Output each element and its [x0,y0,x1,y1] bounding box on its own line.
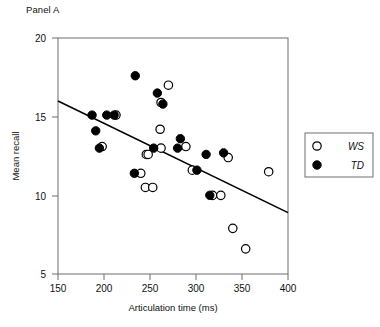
data-points-layer [88,72,273,253]
data-point-ws [229,224,237,232]
legend-label-ws: WS [348,141,364,152]
data-point-ws [164,81,172,89]
x-axis-title: Articulation time (ms) [128,302,217,313]
data-point-ws [264,168,272,176]
data-point-td [159,100,167,108]
data-point-td [202,150,210,158]
y-tick-label: 15 [35,112,47,123]
data-point-td [131,72,139,80]
chart-figure: Panel A 150 200 250 300 350 400 [0,0,380,327]
x-tick-label: 400 [280,283,297,294]
legend: WS TD [305,133,373,177]
data-point-ws [182,142,190,150]
data-point-td [88,111,96,119]
y-axis-title: Mean recall [10,131,21,180]
data-point-td [193,166,201,174]
data-point-td [206,191,214,199]
scatter-plot-svg: 150 200 250 300 350 400 20 15 10 5 Artic… [0,0,380,327]
y-tick-label: 5 [40,269,46,280]
y-axis-ticks [52,38,58,274]
x-axis-tick-labels: 150 200 250 300 350 400 [50,283,297,294]
legend-marker-td [313,161,321,169]
y-tick-label: 10 [35,191,47,202]
x-tick-label: 300 [188,283,205,294]
data-point-td [110,111,118,119]
legend-marker-ws [313,142,321,150]
data-point-ws [241,245,249,253]
data-point-td [92,127,100,135]
x-axis-ticks [58,274,288,280]
x-tick-label: 150 [50,283,67,294]
data-point-td [176,134,184,142]
data-point-ws [217,191,225,199]
data-point-td [149,144,157,152]
data-point-ws [149,183,157,191]
series-ws [98,81,273,253]
data-point-td [173,144,181,152]
y-tick-label: 20 [35,33,47,44]
series-td [88,72,228,200]
x-tick-label: 200 [96,283,113,294]
data-point-td [153,89,161,97]
data-point-td [130,169,138,177]
legend-label-td: TD [351,160,364,171]
data-point-ws [156,125,164,133]
y-axis-tick-labels: 20 15 10 5 [35,33,47,280]
x-tick-label: 350 [234,283,251,294]
data-point-td [219,149,227,157]
data-point-td [95,144,103,152]
x-tick-label: 250 [142,283,159,294]
